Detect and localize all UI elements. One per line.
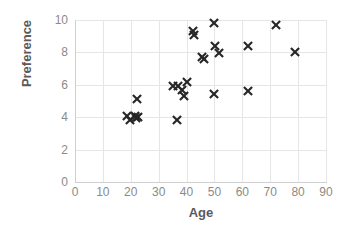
data-point-marker [179,91,190,102]
x-axis-tick-label: 70 [258,185,282,199]
y-axis-line [75,20,76,183]
data-point-marker [188,29,199,40]
data-point-marker [242,40,253,51]
y-axis-tick-label: 2 [42,143,68,157]
x-axis-tick-label: 10 [91,185,115,199]
x-axis-tick-label: 40 [175,185,199,199]
data-point-marker [270,19,281,30]
x-axis-tick-label: 20 [119,185,143,199]
gridline-horizontal [75,150,326,151]
data-point-marker [196,52,207,63]
data-point-marker [167,81,178,92]
gridline-vertical [131,20,132,182]
x-axis-line [75,182,327,183]
gridline-horizontal [75,85,326,86]
x-axis-tick-label: 0 [63,185,87,199]
gridline-vertical [159,20,160,182]
plot-area [75,20,326,182]
gridline-vertical [298,20,299,182]
gridline-vertical [326,20,327,182]
gridline-vertical [103,20,104,182]
y-axis-tick-label: 6 [42,78,68,92]
gridline-vertical [242,20,243,182]
y-axis-title: Preference [19,0,34,124]
x-axis-tick-label: 90 [314,185,338,199]
data-point-marker [243,86,254,97]
gridline-horizontal [75,117,326,118]
y-axis-tick-label: 4 [42,110,68,124]
scatter-chart: Preference Age 0246810 01020304050607080… [0,0,348,241]
gridline-horizontal [75,20,326,21]
y-axis-tick-label: 10 [42,13,68,27]
x-axis-tick-label: 60 [230,185,254,199]
data-point-marker [131,94,142,105]
gridline-vertical [270,20,271,182]
y-axis-tick-label: 8 [42,45,68,59]
x-axis-title: Age [75,205,327,220]
data-point-marker [187,25,198,36]
gridline-horizontal [75,52,326,53]
data-point-marker [198,53,209,64]
x-axis-tick-label: 80 [286,185,310,199]
gridline-vertical [214,20,215,182]
y-axis-tick-labels: 0246810 [40,0,68,241]
x-axis-tick-label: 50 [202,185,226,199]
x-axis-tick-label: 30 [147,185,171,199]
gridline-vertical [187,20,188,182]
